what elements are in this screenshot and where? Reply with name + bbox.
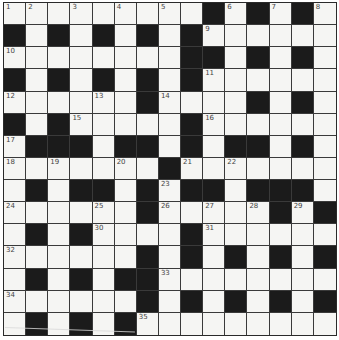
answer-cell[interactable] — [181, 3, 203, 25]
answer-cell[interactable]: 32 — [4, 246, 26, 268]
answer-cell[interactable] — [314, 136, 336, 158]
answer-cell[interactable] — [159, 246, 181, 268]
answer-cell[interactable] — [26, 114, 48, 136]
answer-cell[interactable] — [159, 136, 181, 158]
answer-cell[interactable] — [159, 313, 181, 335]
answer-cell[interactable] — [26, 25, 48, 47]
answer-cell[interactable] — [137, 114, 159, 136]
answer-cell[interactable] — [48, 313, 70, 335]
answer-cell[interactable] — [292, 269, 314, 291]
answer-cell[interactable] — [203, 246, 225, 268]
answer-cell[interactable]: 17 — [4, 136, 26, 158]
answer-cell[interactable] — [93, 158, 115, 180]
answer-cell[interactable] — [292, 25, 314, 47]
answer-cell[interactable] — [225, 224, 247, 246]
answer-cell[interactable] — [137, 3, 159, 25]
answer-cell[interactable] — [247, 246, 269, 268]
answer-cell[interactable]: 8 — [314, 3, 336, 25]
answer-cell[interactable] — [115, 69, 137, 91]
answer-cell[interactable] — [26, 92, 48, 114]
answer-cell[interactable]: 2 — [26, 3, 48, 25]
answer-cell[interactable] — [225, 92, 247, 114]
answer-cell[interactable] — [292, 313, 314, 335]
answer-cell[interactable] — [247, 224, 269, 246]
answer-cell[interactable] — [247, 158, 269, 180]
answer-cell[interactable] — [270, 69, 292, 91]
answer-cell[interactable]: 31 — [203, 224, 225, 246]
answer-cell[interactable] — [70, 291, 92, 313]
answer-cell[interactable] — [270, 114, 292, 136]
answer-cell[interactable] — [137, 158, 159, 180]
answer-cell[interactable] — [292, 246, 314, 268]
answer-cell[interactable]: 7 — [270, 3, 292, 25]
answer-cell[interactable]: 35 — [137, 313, 159, 335]
answer-cell[interactable] — [247, 25, 269, 47]
answer-cell[interactable] — [292, 69, 314, 91]
answer-cell[interactable] — [270, 92, 292, 114]
answer-cell[interactable] — [314, 114, 336, 136]
answer-cell[interactable] — [48, 180, 70, 202]
answer-cell[interactable]: 6 — [225, 3, 247, 25]
answer-cell[interactable] — [270, 224, 292, 246]
answer-cell[interactable] — [70, 202, 92, 224]
answer-cell[interactable]: 30 — [93, 224, 115, 246]
answer-cell[interactable] — [115, 246, 137, 268]
answer-cell[interactable] — [48, 202, 70, 224]
answer-cell[interactable] — [93, 3, 115, 25]
answer-cell[interactable]: 24 — [4, 202, 26, 224]
answer-cell[interactable]: 27 — [203, 202, 225, 224]
answer-cell[interactable]: 15 — [70, 114, 92, 136]
answer-cell[interactable] — [203, 136, 225, 158]
answer-cell[interactable] — [26, 158, 48, 180]
answer-cell[interactable]: 14 — [159, 92, 181, 114]
answer-cell[interactable] — [159, 224, 181, 246]
answer-cell[interactable] — [181, 92, 203, 114]
answer-cell[interactable] — [4, 313, 26, 335]
answer-cell[interactable]: 19 — [48, 158, 70, 180]
answer-cell[interactable] — [225, 269, 247, 291]
answer-cell[interactable]: 4 — [115, 3, 137, 25]
answer-cell[interactable] — [159, 25, 181, 47]
answer-cell[interactable] — [159, 114, 181, 136]
answer-cell[interactable] — [26, 246, 48, 268]
answer-cell[interactable] — [181, 313, 203, 335]
answer-cell[interactable]: 22 — [225, 158, 247, 180]
answer-cell[interactable] — [270, 269, 292, 291]
answer-cell[interactable] — [225, 47, 247, 69]
answer-cell[interactable] — [247, 313, 269, 335]
answer-cell[interactable] — [247, 114, 269, 136]
answer-cell[interactable] — [314, 25, 336, 47]
answer-cell[interactable]: 16 — [203, 114, 225, 136]
answer-cell[interactable] — [48, 291, 70, 313]
answer-cell[interactable] — [159, 291, 181, 313]
answer-cell[interactable]: 3 — [70, 3, 92, 25]
answer-cell[interactable] — [225, 114, 247, 136]
answer-cell[interactable] — [48, 47, 70, 69]
answer-cell[interactable] — [247, 269, 269, 291]
answer-cell[interactable] — [270, 136, 292, 158]
answer-cell[interactable] — [247, 291, 269, 313]
answer-cell[interactable]: 23 — [159, 180, 181, 202]
answer-cell[interactable] — [115, 180, 137, 202]
answer-cell[interactable] — [93, 246, 115, 268]
answer-cell[interactable] — [70, 25, 92, 47]
answer-cell[interactable]: 11 — [203, 69, 225, 91]
answer-cell[interactable] — [159, 69, 181, 91]
answer-cell[interactable] — [314, 180, 336, 202]
answer-cell[interactable] — [314, 269, 336, 291]
answer-cell[interactable] — [292, 158, 314, 180]
answer-cell[interactable] — [225, 180, 247, 202]
answer-cell[interactable] — [270, 47, 292, 69]
answer-cell[interactable] — [159, 47, 181, 69]
answer-cell[interactable] — [48, 269, 70, 291]
answer-cell[interactable] — [314, 69, 336, 91]
answer-cell[interactable] — [70, 158, 92, 180]
answer-cell[interactable] — [203, 269, 225, 291]
answer-cell[interactable] — [203, 313, 225, 335]
answer-cell[interactable] — [4, 224, 26, 246]
answer-cell[interactable] — [48, 92, 70, 114]
answer-cell[interactable] — [270, 25, 292, 47]
answer-cell[interactable] — [115, 291, 137, 313]
answer-cell[interactable] — [292, 224, 314, 246]
answer-cell[interactable]: 26 — [159, 202, 181, 224]
